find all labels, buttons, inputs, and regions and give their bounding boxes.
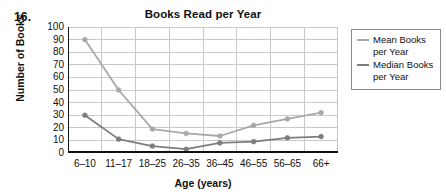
y-tick-label: 70 [53, 60, 64, 70]
legend-swatch-median [357, 64, 369, 66]
y-tick-label: 60 [53, 72, 64, 82]
y-tick-label: 50 [53, 85, 64, 95]
chart-page: 16. Books Read per Year Number of Books … [0, 0, 446, 196]
y-tick-label: 30 [53, 110, 64, 120]
plot-area: 0102030405060708090100 6–1011–1718–2526–… [68, 27, 338, 153]
x-tick-label: 66+ [313, 158, 330, 169]
y-tick-label: 90 [53, 35, 64, 45]
legend-swatch-mean [357, 39, 369, 41]
x-tick-label: 46–55 [240, 158, 267, 169]
y-axis-label: Number of Books [14, 8, 26, 108]
legend-label-median-line1: Median Books [373, 59, 433, 70]
chart-svg [68, 27, 338, 153]
chart-title: Books Read per Year [68, 8, 338, 20]
legend-label-mean-line1: Mean Books [373, 34, 426, 45]
legend-label-median-line2: per Year [373, 71, 433, 83]
legend-label-mean-line2: per Year [373, 46, 426, 58]
legend-item-median: Median Books per Year [355, 59, 437, 83]
y-tick-label: 40 [53, 98, 64, 108]
x-tick-label: 36–45 [206, 158, 233, 169]
legend-label-median: Median Books per Year [373, 59, 433, 83]
x-tick-label: 18–25 [139, 158, 166, 169]
y-tick-label: 10 [53, 135, 64, 145]
y-tick-label: 80 [53, 47, 64, 57]
x-axis-label: Age (years) [68, 177, 338, 189]
x-tick-label: 6–10 [74, 158, 96, 169]
x-tick-label: 56–65 [274, 158, 301, 169]
chart-legend: Mean Books per Year Median Books per Yea… [351, 29, 441, 90]
legend-item-mean: Mean Books per Year [355, 34, 437, 58]
y-tick-label: 20 [53, 123, 64, 133]
y-tick-label: 100 [47, 22, 64, 32]
x-tick-label: 26–35 [172, 158, 199, 169]
x-tick-label: 11–17 [105, 158, 132, 169]
legend-label-mean: Mean Books per Year [373, 34, 426, 58]
y-tick-label: 0 [58, 148, 64, 158]
